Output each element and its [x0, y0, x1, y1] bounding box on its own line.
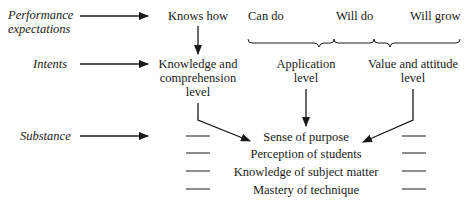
intents-label: Intents: [33, 57, 67, 71]
value-attitude-level: Value and attitude level: [363, 57, 463, 85]
label-line: expectations: [8, 22, 68, 36]
knows-how: Knows how: [158, 9, 238, 23]
label-line: Application: [266, 57, 346, 71]
label-line: Value and attitude: [363, 57, 463, 71]
label-line: level: [266, 71, 346, 85]
label-line: Performance: [8, 8, 68, 22]
grouping-braces: [248, 39, 460, 47]
substance-item: Sense of purpose: [206, 130, 406, 144]
can-do: Can do: [248, 9, 284, 23]
substance-item: Mastery of technique: [206, 183, 406, 197]
label-line: comprehension: [148, 71, 248, 85]
label-line: level: [148, 85, 248, 99]
substance-label: Substance: [20, 129, 71, 143]
application-level: Application level: [266, 57, 346, 85]
will-do: Will do: [336, 9, 373, 23]
performance-expectations-label: Performance expectations: [8, 8, 68, 36]
will-grow: Will grow: [410, 9, 461, 23]
substance-item: Perception of students: [206, 147, 406, 161]
label-line: level: [363, 71, 463, 85]
knowledge-comprehension-level: Knowledge and comprehension level: [148, 57, 248, 99]
label-line: Knowledge and: [148, 57, 248, 71]
substance-item: Knowledge of subject matter: [206, 165, 406, 179]
